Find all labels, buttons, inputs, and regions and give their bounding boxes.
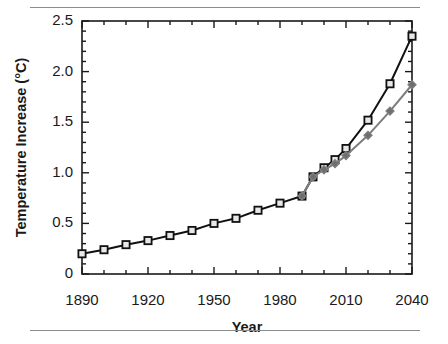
- top-divider: [30, 7, 420, 8]
- data-point-marker: [254, 207, 261, 214]
- data-point-marker: [408, 33, 415, 40]
- labels-layer: 18901920195019802010204000.51.01.52.02.5…: [13, 11, 429, 335]
- series-layer: [78, 33, 416, 258]
- line-chart: 18901920195019802010204000.51.01.52.02.5…: [0, 0, 448, 344]
- y-tick-label: 2.0: [52, 62, 73, 79]
- series-high-scenario: [78, 33, 415, 258]
- series-line: [302, 85, 412, 196]
- axes-layer: [82, 21, 412, 274]
- y-tick-label: 0: [65, 264, 73, 281]
- series-low-scenario: [298, 81, 416, 200]
- data-point-marker: [166, 232, 173, 239]
- data-point-marker: [276, 200, 283, 207]
- data-point-marker: [122, 241, 129, 248]
- data-point-marker: [364, 117, 371, 124]
- data-point-marker: [386, 80, 393, 87]
- series-line: [82, 36, 412, 254]
- y-axis-title: Temperature Increase (°C): [13, 58, 29, 238]
- y-tick-label: 2.5: [52, 11, 73, 28]
- x-tick-label: 1920: [131, 291, 164, 308]
- x-tick-label: 2040: [395, 291, 428, 308]
- x-tick-label: 1890: [65, 291, 98, 308]
- x-tick-label: 2010: [329, 291, 362, 308]
- data-point-marker: [232, 215, 239, 222]
- data-point-marker: [210, 220, 217, 227]
- y-tick-label: 0.5: [52, 213, 73, 230]
- y-tick-label: 1.5: [52, 112, 73, 129]
- x-axis-title: Year: [232, 319, 263, 335]
- data-point-marker: [188, 227, 195, 234]
- data-point-marker: [100, 246, 107, 253]
- data-point-marker: [144, 237, 151, 244]
- y-tick-label: 1.0: [52, 163, 73, 180]
- x-tick-label: 1980: [263, 291, 296, 308]
- figure-container: 18901920195019802010204000.51.01.52.02.5…: [0, 0, 448, 344]
- data-point-marker: [78, 250, 85, 257]
- plot-frame: [82, 21, 412, 274]
- x-tick-label: 1950: [197, 291, 230, 308]
- bottom-divider: [30, 330, 420, 331]
